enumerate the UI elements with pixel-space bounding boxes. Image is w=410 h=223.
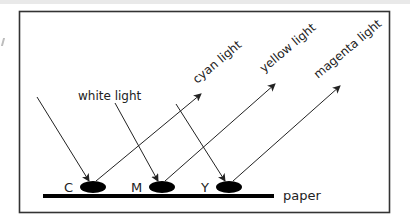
incoming-arrow-1 [37,97,89,181]
label-magenta-light: magenta light [311,16,385,81]
paper-bar [43,194,274,198]
ink-label-y: Y [200,180,209,195]
label-cyan-light: cyan light [190,37,244,86]
label-white-light: white light [78,89,142,103]
label-paper: paper [283,188,321,203]
label-yellow-light: yellow light [257,20,319,75]
ink-dot-magenta [149,181,175,193]
incoming-arrow-2 [115,103,158,181]
incoming-arrow-3 [176,104,225,181]
ink-dot-yellow [216,181,242,193]
reflected-arrow-yellow [165,84,275,181]
reflected-arrow-magenta [233,86,340,181]
ink-dot-cyan [80,181,106,193]
ink-label-m: M [131,180,142,195]
reflected-arrow-cyan [96,94,201,181]
subtractive-color-diagram: white light cyan light yellow light mage… [0,0,410,223]
ink-label-c: C [64,180,73,195]
